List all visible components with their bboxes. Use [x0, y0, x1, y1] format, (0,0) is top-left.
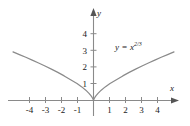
curve-y-equals-x-two-thirds [13, 52, 94, 100]
y-axis-label: y [96, 8, 101, 18]
y-tick-label-2: 2 [83, 62, 88, 72]
x-tick-label-2: 2 [123, 105, 128, 115]
plot-svg: -4 -3 -2 -1 1 2 3 4 1 2 3 4 x y [0, 0, 190, 126]
curve-equation-annotation: y=x2/3 [115, 43, 142, 52]
x-axis-arrow-icon [171, 97, 179, 103]
equation-lhs: y [115, 42, 119, 52]
figure-container: -4 -3 -2 -1 1 2 3 4 1 2 3 4 x y y=x2/3 [0, 0, 190, 126]
x-tick-label--4: -4 [26, 105, 34, 115]
curve-y-equals-x-two-thirds-right [94, 52, 175, 100]
x-tick-label-3: 3 [139, 105, 144, 115]
equation-exponent: 2/3 [134, 41, 142, 47]
equation-equals: = [122, 42, 127, 52]
x-axis-label: x [169, 83, 174, 93]
x-tick-label--2: -2 [58, 105, 66, 115]
x-tick-label--1: -1 [74, 105, 82, 115]
y-tick-label-4: 4 [83, 29, 88, 39]
x-tick-label--3: -3 [42, 105, 50, 115]
x-tick-label-4: 4 [155, 105, 160, 115]
y-tick-label-3: 3 [83, 46, 88, 56]
x-tick-label-1: 1 [107, 105, 112, 115]
y-axis-arrow-icon [90, 8, 96, 16]
